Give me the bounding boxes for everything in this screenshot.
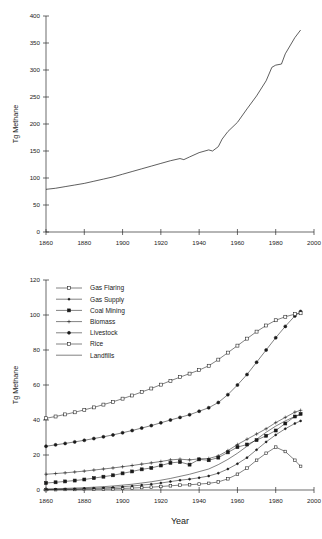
data-marker (299, 465, 302, 468)
chart-text: 20 (33, 451, 40, 458)
data-marker (122, 486, 124, 488)
data-marker (217, 481, 220, 484)
data-marker (141, 484, 143, 486)
data-marker (68, 298, 70, 300)
data-marker (300, 420, 302, 422)
data-marker (112, 433, 115, 436)
series-line (46, 313, 301, 418)
data-marker (236, 463, 238, 465)
data-marker (274, 319, 277, 322)
data-marker (274, 429, 277, 432)
chart-text: Rice (90, 340, 104, 347)
data-marker (198, 483, 201, 486)
data-marker (83, 478, 86, 481)
chart-text: 300 (30, 66, 41, 73)
data-marker (255, 361, 258, 364)
chart-text: 40 (33, 416, 40, 423)
series-line (46, 410, 301, 474)
bottom-series (45, 310, 303, 448)
data-marker (236, 384, 239, 387)
data-marker (265, 452, 268, 455)
chart-text: Tg Methane (11, 366, 20, 404)
data-marker (246, 457, 248, 459)
data-marker (150, 466, 153, 469)
data-marker (207, 406, 210, 409)
data-marker (246, 373, 249, 376)
legend-item[interactable]: Gas Flaring (56, 284, 124, 292)
chart-text: Coal Mining (90, 307, 125, 315)
legend-item[interactable]: Gas Supply (56, 296, 125, 304)
data-marker (159, 464, 162, 467)
legend-item[interactable]: Livestock (56, 329, 118, 336)
data-marker (45, 445, 48, 448)
data-marker (299, 312, 302, 315)
bottom-series (45, 312, 303, 420)
data-marker (274, 336, 277, 339)
chart-text: 1960 (231, 497, 245, 504)
legend-item[interactable]: Rice (56, 340, 104, 347)
data-marker (45, 417, 48, 420)
data-marker (293, 313, 296, 316)
series-line (46, 312, 301, 447)
data-marker (265, 349, 268, 352)
data-marker (294, 459, 297, 462)
chart-text: Biomass (90, 318, 116, 325)
chart-text: 1940 (192, 239, 206, 246)
chart-text: 150 (30, 147, 41, 154)
data-marker (227, 478, 230, 481)
bottom-chart-panel: 0204060801001201860188019001920194019601… (0, 262, 322, 539)
chart-text: Gas Flaring (90, 284, 124, 292)
data-marker (83, 439, 86, 442)
data-marker (246, 467, 249, 470)
data-marker (159, 383, 162, 386)
data-marker (131, 485, 133, 487)
data-marker (188, 413, 191, 416)
data-marker (73, 440, 76, 443)
data-marker (131, 470, 134, 473)
data-marker (121, 397, 124, 400)
bottom-series (45, 412, 303, 484)
data-marker (217, 401, 220, 404)
data-marker (188, 483, 191, 486)
legend-item[interactable]: Biomass (56, 318, 116, 325)
chart-text: 1900 (116, 497, 130, 504)
chart-text: 350 (30, 39, 41, 46)
data-marker (179, 376, 182, 379)
data-marker (265, 324, 268, 327)
data-marker (217, 358, 220, 361)
bottom-chart-svg: 0204060801001201860188019001920194019601… (0, 262, 322, 539)
data-marker (226, 393, 229, 396)
legend-item[interactable]: Landfills (56, 352, 115, 359)
data-marker (92, 477, 95, 480)
chart-text: 400 (30, 12, 41, 19)
chart-text: 1940 (192, 497, 206, 504)
data-marker (92, 437, 95, 440)
bottom-series (45, 446, 302, 491)
chart-text: Landfills (90, 352, 115, 359)
data-marker (54, 415, 57, 418)
chart-text: 1880 (77, 497, 91, 504)
top-series-line (46, 30, 301, 189)
chart-text: 1920 (154, 497, 168, 504)
data-marker (198, 410, 201, 413)
chart-text: 1900 (116, 239, 130, 246)
data-marker (246, 337, 249, 340)
data-marker (169, 379, 172, 382)
data-marker (140, 391, 143, 394)
data-marker (265, 434, 268, 437)
data-marker (274, 446, 277, 449)
data-marker (169, 419, 172, 422)
chart-text: Gas Supply (90, 296, 125, 304)
chart-text: 0 (37, 486, 41, 493)
data-marker (112, 400, 115, 403)
legend-item[interactable]: Coal Mining (56, 307, 125, 315)
top-chart-svg: 0501001502002503003504001860188019001920… (0, 0, 322, 262)
chart-text: Year (171, 516, 189, 526)
chart-text: 1860 (39, 239, 53, 246)
data-marker (207, 482, 210, 485)
data-marker (92, 406, 95, 409)
data-marker (121, 472, 124, 475)
data-marker (131, 394, 134, 397)
data-marker (160, 482, 162, 484)
data-marker (198, 477, 200, 479)
